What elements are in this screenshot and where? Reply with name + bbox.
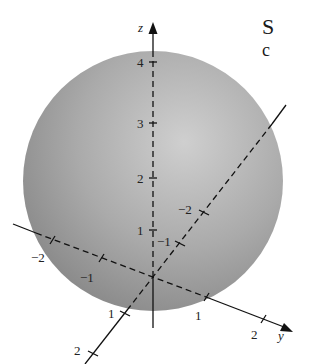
x-tick-1: 1 [108, 306, 115, 321]
y-tick-neg1: −1 [80, 270, 94, 285]
side-text-line1: S [262, 14, 274, 40]
z-axis-arrow-icon [149, 22, 158, 34]
y-axis-label: y [276, 328, 284, 343]
x-tick-neg2: −2 [178, 202, 192, 217]
x-tick-neg1: −1 [157, 234, 171, 249]
z-tick-4: 4 [137, 55, 144, 70]
side-text-line2: c [262, 40, 270, 61]
z-tick-2: 2 [137, 171, 144, 186]
z-tick-3: 3 [137, 116, 144, 131]
y-tick-2: 2 [251, 327, 258, 342]
z-axis-label: z [137, 20, 143, 35]
y-tick-neg2: −2 [31, 250, 45, 265]
z-tick-1: 1 [137, 223, 144, 238]
x-tick-2: 2 [74, 343, 81, 358]
y-tick-1: 1 [195, 308, 202, 323]
